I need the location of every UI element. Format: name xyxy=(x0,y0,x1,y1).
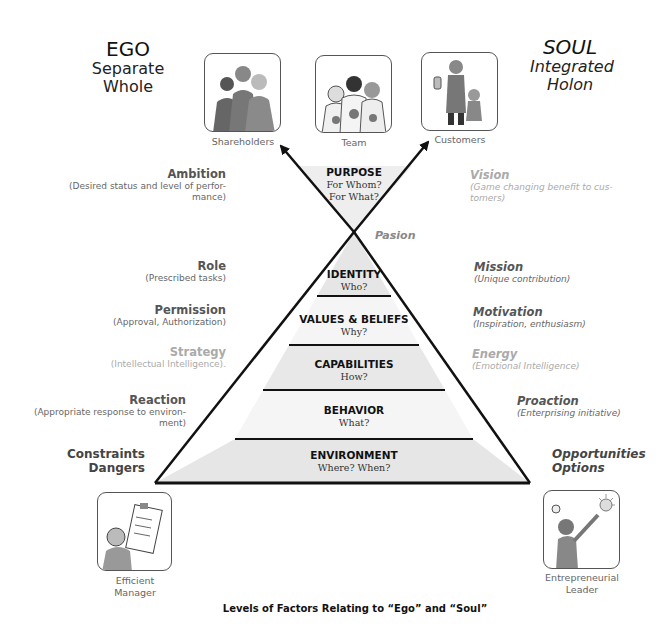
entrepreneurial-leader-caption: Entrepreneurial Leader xyxy=(532,572,632,596)
purpose-q1: For Whom? xyxy=(314,179,394,191)
level-values-beliefs: VALUES & BELIEFS Why? xyxy=(284,313,424,338)
level-capabilities: CAPABILITIES How? xyxy=(284,358,424,383)
ego-line2: Whole xyxy=(88,78,168,96)
level-behavior: BEHAVIOR What? xyxy=(284,404,424,429)
team-caption: Team xyxy=(309,137,399,149)
purpose-q2: For What? xyxy=(314,191,394,203)
right-label-motivation: Motivation (Inspiration, enthusiasm) xyxy=(473,305,643,330)
customers-illustration-icon xyxy=(421,52,498,131)
diagram-caption: Levels of Factors Relating to “Ego” and … xyxy=(220,603,490,614)
left-label-constraints: Constraints Dangers xyxy=(40,447,145,475)
purpose-label: PURPOSE For Whom? For What? xyxy=(314,166,394,203)
entrepreneurial-leader-illustration-icon xyxy=(543,490,620,569)
ego-title: EGO xyxy=(88,38,168,60)
ego-line1: Separate xyxy=(88,60,168,78)
level-environment: ENVIRONMENT Where? When? xyxy=(274,449,434,474)
left-label-permission: Permission (Approval, Authorization) xyxy=(60,303,226,328)
soul-header: SOUL Integrated Holon xyxy=(530,36,610,94)
ego-header: EGO Separate Whole xyxy=(88,38,168,96)
efficient-manager-illustration-icon xyxy=(97,492,172,571)
pasion-label: Pasion xyxy=(375,229,416,242)
right-label-proaction: Proaction (Enterprising initiative) xyxy=(517,394,664,419)
soul-title: SOUL xyxy=(530,36,610,58)
team-illustration-icon xyxy=(315,55,392,133)
left-label-ambition: Ambition (Desired status and level of pe… xyxy=(30,167,226,203)
right-label-mission: Mission (Unique contribution) xyxy=(474,260,644,285)
soul-line2: Holon xyxy=(530,76,610,94)
level-identity: IDENTITY Who? xyxy=(304,268,404,293)
right-label-energy: Energy (Emotional Intelligence) xyxy=(472,347,642,372)
customers-caption: Customers xyxy=(415,134,505,146)
efficient-manager-caption: Efficient Manager xyxy=(90,575,180,599)
purpose-name: PURPOSE xyxy=(314,166,394,179)
shareholders-illustration-icon xyxy=(204,53,281,132)
shareholders-caption: Shareholders xyxy=(198,136,288,148)
left-label-strategy: Strategy (Intellectual Intelligence). xyxy=(60,345,226,370)
left-label-role: Role (Prescribed tasks) xyxy=(60,259,226,284)
right-label-vision: Vision (Game changing benefit to cus- to… xyxy=(470,168,640,204)
left-label-reaction: Reaction (Appropriate response to enviro… xyxy=(0,393,186,429)
right-label-opportunities: Opportunities Options xyxy=(552,447,664,475)
soul-line1: Integrated xyxy=(530,58,610,76)
